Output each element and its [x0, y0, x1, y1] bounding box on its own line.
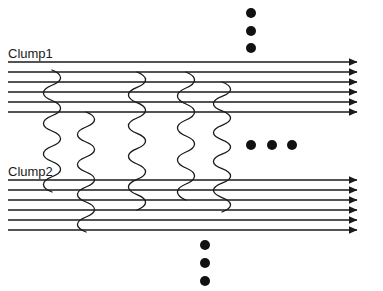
ellipsis-dot-groups — [200, 8, 297, 286]
connector-wave-group — [43, 70, 230, 232]
dots-middle-dot-2 — [267, 140, 277, 150]
wave-3 — [128, 72, 145, 210]
dots-top — [246, 8, 256, 53]
diagram-graphics — [0, 0, 383, 291]
dots-middle-dot-1 — [246, 140, 256, 150]
dots-bottom-dot-2 — [200, 258, 210, 268]
dots-bottom-dot-1 — [200, 240, 210, 250]
dots-top-dot-2 — [246, 26, 256, 36]
dots-top-dot-1 — [246, 8, 256, 18]
dots-bottom-dot-3 — [200, 276, 210, 286]
wave-2 — [77, 112, 94, 232]
wave-4 — [177, 72, 194, 200]
clump2-line-group — [8, 180, 357, 230]
diagram-canvas: Clump1 Clump2 — [0, 0, 383, 291]
clump1-label: Clump1 — [8, 47, 53, 60]
dots-bottom — [200, 240, 210, 286]
dots-middle-dot-3 — [287, 140, 297, 150]
dots-middle — [246, 140, 297, 150]
dots-top-dot-3 — [246, 43, 256, 53]
clump1-line-group — [8, 62, 357, 112]
clump2-label: Clump2 — [8, 165, 53, 178]
